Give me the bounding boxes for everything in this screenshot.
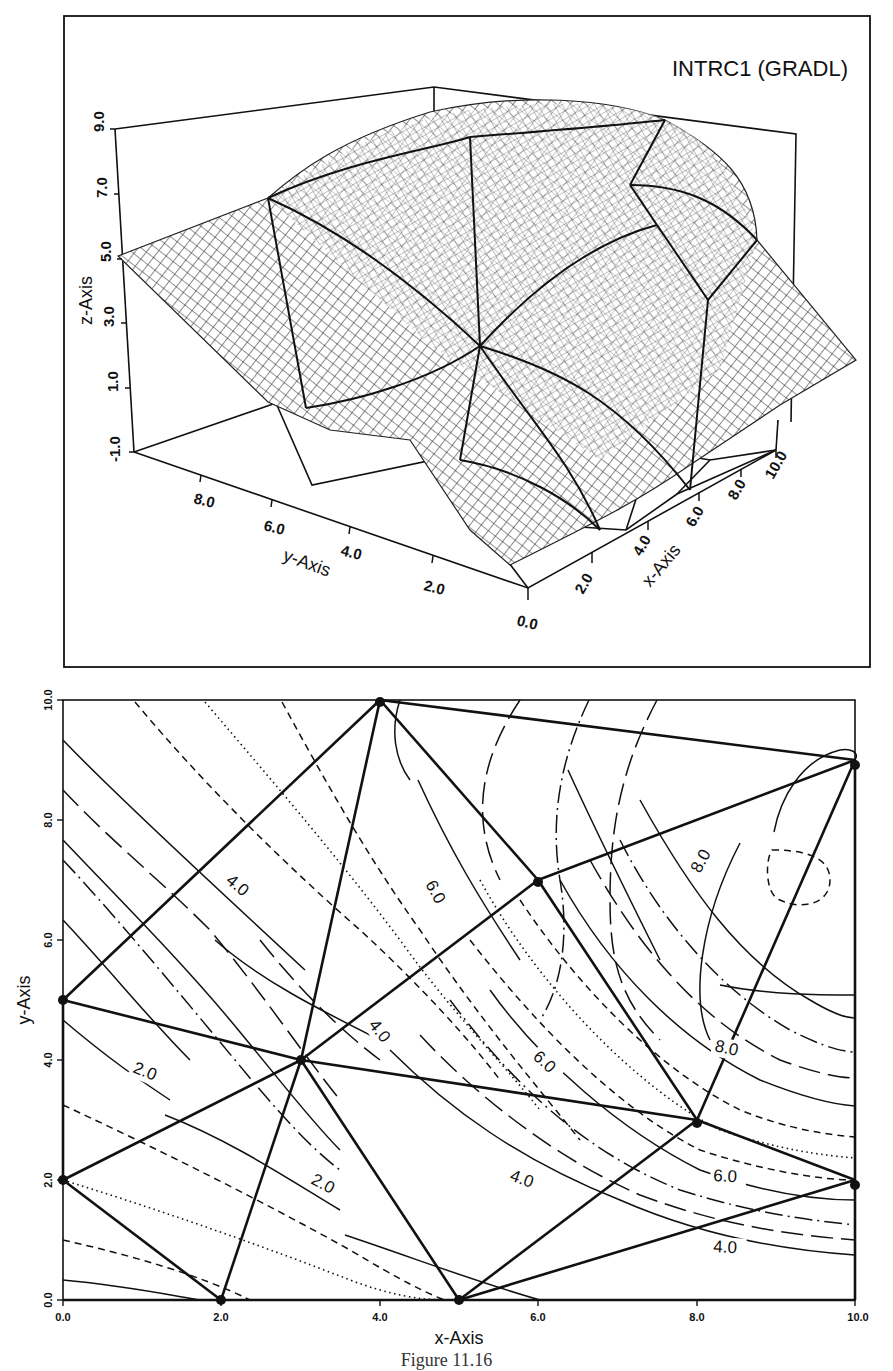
x-tick-6: 6.0: [682, 503, 707, 530]
z-tick-7: 7.0: [93, 177, 110, 198]
contour-y-ticks: 0.0 2.0 4.0 6.0 8.0 10.0: [42, 689, 54, 1307]
z-tick-neg1: -1.0: [106, 436, 123, 462]
node-3-4: [296, 1055, 306, 1065]
y-axis-label: y-Axis: [14, 976, 34, 1025]
z-axis-label: z-Axis: [76, 276, 96, 325]
contour-label: 6.0: [713, 1166, 738, 1186]
z-tick-9: 9.0: [90, 111, 107, 132]
y-tick-label: 4.0: [42, 1052, 54, 1067]
x-axis-label: x-Axis: [435, 1328, 484, 1348]
y-tick-4: 4.0: [339, 541, 363, 563]
x-tick-label: 2.0: [213, 1311, 228, 1323]
y-tick-6: 6.0: [262, 516, 286, 538]
y-tick-label: 0.0: [42, 1292, 54, 1307]
origin-tick: 0.0: [515, 611, 539, 633]
contour-label: 4.0: [713, 1237, 738, 1257]
y-axis-label-3d: y-Axis: [281, 545, 334, 581]
z-tick-3: 3.0: [100, 306, 117, 327]
x-tick-label: 8.0: [689, 1311, 704, 1323]
x-tick-4: 4.0: [629, 532, 654, 559]
x-tick-8: 8.0: [724, 476, 749, 503]
surface-plot: INTRC1 (GRADL): [64, 16, 870, 667]
y-tick-8: 8.0: [192, 489, 216, 511]
node-4-10: [375, 697, 385, 707]
node-0-5: [58, 995, 68, 1005]
y-tick-label: 10.0: [42, 689, 54, 710]
y-tick-2: 2.0: [422, 576, 446, 598]
z-tick-5: 5.0: [97, 241, 114, 262]
x-tick-label: 10.0: [847, 1311, 868, 1323]
node-6-7: [533, 877, 543, 887]
node-10-2: [850, 1180, 860, 1190]
x-tick-label: 0.0: [55, 1311, 70, 1323]
surface-plot-title: INTRC1 (GRADL): [672, 56, 848, 81]
3d-surface-mesh: [118, 100, 856, 565]
y-tick-label: 2.0: [42, 1172, 54, 1187]
x-tick-label: 4.0: [372, 1311, 387, 1323]
node-10-9: [850, 760, 860, 770]
x-tick-10: 10.0: [761, 448, 790, 482]
y-tick-label: 6.0: [42, 932, 54, 947]
z-tick-1: 1.0: [104, 371, 121, 392]
node-5-0: [454, 1295, 464, 1305]
contour-x-ticks: 0.0 2.0 4.0 6.0 8.0 10.0: [55, 1311, 868, 1323]
figure-caption: Figure 11.16: [0, 1350, 893, 1371]
z-axis: 9.0 7.0 5.0 3.0 1.0 -1.0 z-Axis: [76, 111, 134, 462]
x-tick-2: 2.0: [571, 570, 596, 597]
y-tick-label: 8.0: [42, 812, 54, 827]
x-tick-label: 6.0: [530, 1311, 545, 1323]
node-8-3: [692, 1118, 702, 1128]
contour-plot: 4.0 6.0 8.0 2.0 4.0 6.0 8.0 2.0 4.0 6.0 …: [14, 689, 869, 1348]
triangulation-edges: [63, 700, 855, 1300]
